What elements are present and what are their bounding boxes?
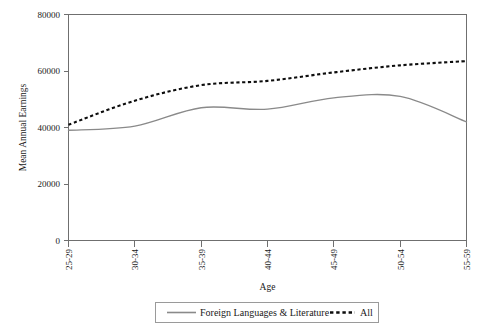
y-tick-label-80000: 80000 (38, 10, 61, 20)
legend-label-all: All (360, 307, 373, 318)
x-tick-label-6: 55-59 (462, 249, 472, 270)
y-tick-label-60000: 60000 (38, 66, 61, 76)
y-tick-label-20000: 20000 (38, 179, 61, 189)
x-axis-ticks: 25-29 30-34 35-39 40-44 45-49 50-54 55-5… (64, 241, 472, 271)
x-tick-label-0: 25-29 (64, 249, 74, 270)
series-line-all (69, 61, 467, 125)
x-tick-label-2: 35-39 (197, 249, 207, 270)
x-tick-label-3: 40-44 (263, 249, 273, 270)
series-line-foreign-languages-literature (69, 95, 467, 131)
x-axis-title: Age (260, 282, 276, 292)
x-tick-label-5: 50-54 (396, 249, 406, 270)
chart-container: 0 20000 40000 60000 80000 Mean Annual Ea… (0, 0, 489, 336)
chart-legend: Foreign Languages & Literature All (156, 303, 379, 323)
y-tick-label-40000: 40000 (38, 123, 61, 133)
line-chart: 0 20000 40000 60000 80000 Mean Annual Ea… (0, 0, 489, 336)
y-axis-title: Mean Annual Earnings (18, 83, 28, 171)
y-axis-ticks: 0 20000 40000 60000 80000 (38, 10, 69, 246)
x-tick-label-1: 30-34 (130, 249, 140, 270)
legend-label-foreign-languages-literature: Foreign Languages & Literature (200, 307, 330, 318)
x-tick-label-4: 45-49 (329, 249, 339, 270)
y-tick-label-0: 0 (56, 236, 61, 246)
